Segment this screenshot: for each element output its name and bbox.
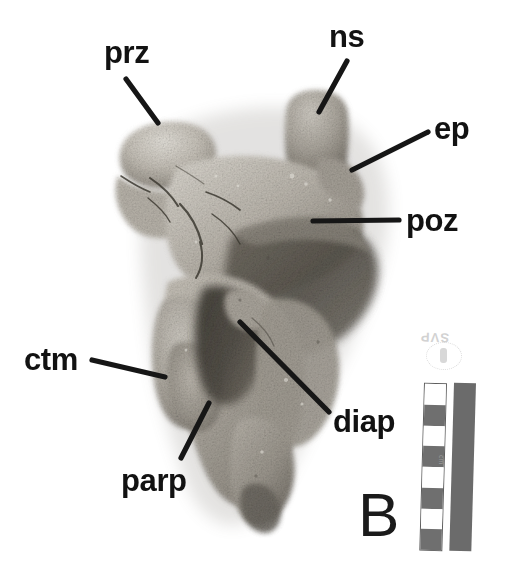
annotation-label-ns: ns <box>329 21 364 52</box>
stamp-seal-icon <box>426 342 462 370</box>
stamp-seal-inner-icon <box>440 348 447 363</box>
scale-bar-segment <box>424 384 446 405</box>
scale-bar-segment <box>423 425 445 446</box>
scale-bar-segment <box>420 529 442 550</box>
annotation-label-ep: ep <box>434 113 469 144</box>
faint-stamp: SVP <box>414 312 484 374</box>
figure-panel: SVP cm prznseppozctmparpdiap B <box>0 0 514 577</box>
scale-bar-checkered <box>419 383 447 552</box>
annotation-label-ctm: ctm <box>24 344 78 375</box>
scale-bar-segment <box>422 467 444 488</box>
panel-letter: B <box>358 484 399 546</box>
annotation-label-diap: diap <box>333 406 395 437</box>
annotation-label-poz: poz <box>406 205 458 236</box>
scale-bar: cm <box>420 383 482 555</box>
scale-bar-segment <box>421 508 443 529</box>
scale-bar-segment <box>424 404 446 425</box>
annotation-label-parp: parp <box>121 465 187 496</box>
annotation-label-prz: prz <box>104 37 149 68</box>
scale-bar-solid <box>449 383 476 552</box>
scale-bar-tick-label: cm <box>438 455 445 464</box>
scale-bar-segment <box>421 487 443 508</box>
